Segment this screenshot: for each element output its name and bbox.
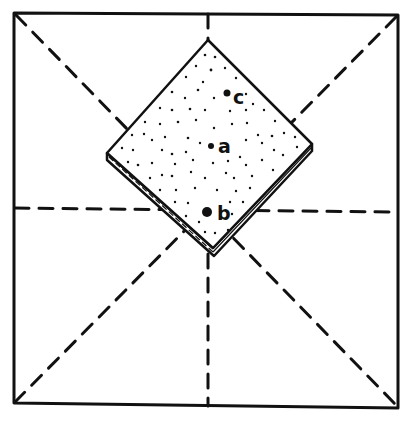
point-b-label: b	[217, 202, 231, 224]
point-a-label: a	[218, 135, 231, 157]
point-c-dot	[224, 90, 231, 97]
point-a-dot	[208, 143, 214, 149]
point-c-label: c	[233, 86, 244, 108]
diagram-canvas: c a b	[0, 0, 406, 426]
diagram-svg: c a b	[0, 0, 406, 426]
point-b-dot	[202, 207, 212, 217]
